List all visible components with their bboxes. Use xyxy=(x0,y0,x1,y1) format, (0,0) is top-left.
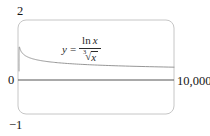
y-max-tick-label: 2 xyxy=(17,5,23,18)
fraction-denominator: 3 √ x xyxy=(82,49,98,63)
fraction: ln x 3 √ x xyxy=(79,35,100,63)
fraction-numerator: ln x xyxy=(79,35,100,48)
cube-root-index: 3 xyxy=(83,49,86,56)
origin-tick-label: 0 xyxy=(8,74,14,87)
equals-sign: = xyxy=(70,44,76,55)
plot-canvas xyxy=(0,0,210,136)
ln-function-name: ln xyxy=(82,35,91,46)
radicand-variable: x xyxy=(91,51,98,63)
numerator-variable: x xyxy=(93,35,98,46)
function-graph-figure: 2 0 −1 10,000 y = ln x 3 √ x xyxy=(0,0,210,136)
equation-lhs-variable: y xyxy=(62,44,67,55)
x-max-tick-label: 10,000 xyxy=(177,75,210,88)
function-equation-label: y = ln x 3 √ x xyxy=(62,35,101,63)
y-min-tick-label: −1 xyxy=(9,119,22,132)
